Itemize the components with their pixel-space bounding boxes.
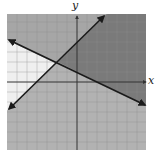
- x-axis-label: x: [148, 74, 154, 87]
- y-axis-label: y: [72, 0, 78, 12]
- plot-svg: [0, 0, 155, 150]
- inequality-graph: y x: [0, 0, 155, 150]
